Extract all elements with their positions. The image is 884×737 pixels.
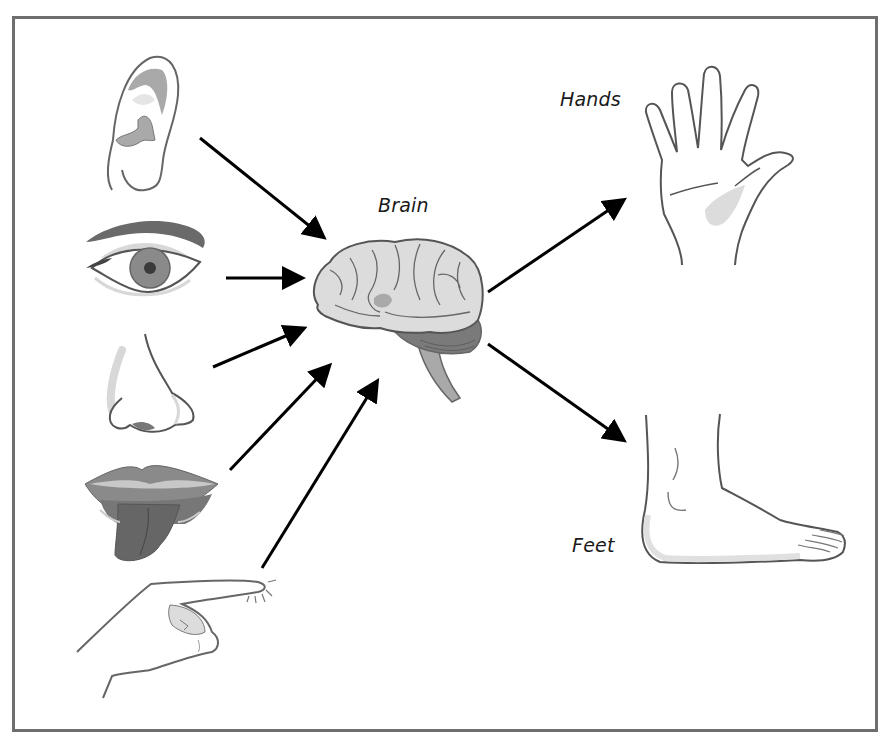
arrow-mouth-to-brain — [230, 367, 328, 470]
brain-label: Brain — [378, 194, 429, 216]
hand-icon — [646, 67, 793, 265]
pointing-finger-icon — [77, 580, 276, 698]
arrow-ear-to-brain — [200, 138, 322, 236]
arrow-brain-to-hands — [488, 201, 622, 292]
eye-icon — [86, 221, 205, 295]
mouth-tongue-icon — [85, 466, 218, 561]
arrow-brain-to-feet — [488, 344, 622, 439]
arrow-touch-to-brain — [262, 383, 376, 568]
arrow-nose-to-brain — [213, 329, 302, 367]
ear-icon — [108, 57, 178, 190]
feet-label: Feet — [572, 534, 615, 556]
brain-icon — [314, 239, 483, 402]
foot-icon — [642, 414, 845, 563]
sensory-diagram — [0, 0, 884, 737]
hands-label: Hands — [560, 88, 621, 110]
nose-icon — [110, 334, 194, 432]
